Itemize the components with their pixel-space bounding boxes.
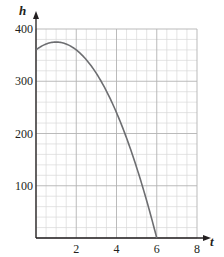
chart-figure: 100200300400 2468 h t — [0, 0, 224, 257]
x-tick-label: 4 — [114, 242, 120, 256]
axes — [36, 16, 206, 238]
y-axis-label: h — [19, 3, 26, 18]
x-tick-label: 6 — [154, 242, 160, 256]
y-tick-labels: 100200300400 — [15, 22, 33, 193]
x-tick-label: 2 — [73, 242, 79, 256]
y-tick-label: 400 — [15, 22, 33, 36]
x-tick-labels: 2468 — [73, 242, 200, 256]
x-tick-label: 8 — [194, 242, 200, 256]
x-axis-label: t — [210, 234, 214, 249]
y-tick-label: 100 — [15, 179, 33, 193]
y-tick-label: 200 — [15, 127, 33, 141]
y-axis-arrow-icon — [33, 11, 39, 19]
y-tick-label: 300 — [15, 74, 33, 88]
